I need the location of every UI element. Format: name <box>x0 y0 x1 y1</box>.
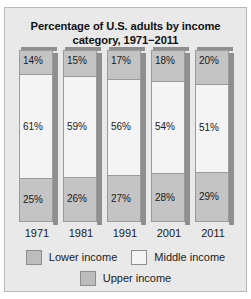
x-axis-tick-label: 1971 <box>17 226 57 240</box>
x-axis-tick-label: 1981 <box>61 226 101 240</box>
legend-row-secondary: Upper income <box>5 271 246 286</box>
legend-item: Lower income <box>26 250 117 265</box>
bar-segment-upper-income: 18% <box>152 51 184 82</box>
chart-title-line-2: category, 1971−2011 <box>5 33 246 47</box>
bar-segment-value-label: 51% <box>199 122 219 133</box>
bar-segment-value-label: 56% <box>111 121 131 132</box>
bar-3d-side-face <box>185 53 190 225</box>
stacked-bar: 18%54%28% <box>151 50 185 222</box>
bar-segment-value-label: 29% <box>199 191 219 202</box>
x-axis-tick-label: 2011 <box>193 226 233 240</box>
bar-segment-lower-income: 29% <box>196 172 228 221</box>
chart-legend: Lower incomeMiddle income Upper income <box>5 250 246 292</box>
bar-segment-value-label: 59% <box>67 121 87 132</box>
bar-segment-middle-income: 56% <box>108 80 140 175</box>
stacked-bar-plot-area: 14%61%25%15%59%26%17%56%27%18%54%28%20%5… <box>5 50 246 222</box>
bar-segment-value-label: 27% <box>111 193 131 204</box>
stacked-bar: 20%51%29% <box>195 50 229 222</box>
stacked-bar: 14%61%25% <box>19 50 53 222</box>
x-axis-tick-label: 1991 <box>105 226 145 240</box>
legend-color-swatch <box>80 271 96 286</box>
chart-title-line-1: Percentage of U.S. adults by income <box>5 19 246 33</box>
chart-title: Percentage of U.S. adults by income cate… <box>5 19 246 47</box>
bar-3d-side-face <box>141 53 146 225</box>
bar-segment-lower-income: 28% <box>152 173 184 221</box>
legend-item-label: Upper income <box>103 272 171 285</box>
bar-segment-middle-income: 59% <box>64 77 96 177</box>
legend-item: Middle income <box>131 250 225 265</box>
legend-item-label: Middle income <box>154 251 225 264</box>
bar-segment-value-label: 17% <box>111 55 131 66</box>
legend-color-swatch <box>26 250 42 265</box>
legend-row-primary: Lower incomeMiddle income <box>5 250 246 265</box>
bar-segment-middle-income: 61% <box>20 75 52 179</box>
bar-segment-value-label: 54% <box>155 121 175 132</box>
bar-segment-value-label: 20% <box>199 55 219 66</box>
bar-segment-lower-income: 26% <box>64 177 96 221</box>
bar-segment-value-label: 18% <box>155 55 175 66</box>
bar-segment-lower-income: 25% <box>20 178 52 221</box>
chart-panel: Percentage of U.S. adults by income cate… <box>4 7 247 292</box>
x-axis-year-labels: 19711981199120012011 <box>5 226 246 242</box>
bar-segment-lower-income: 27% <box>108 175 140 221</box>
bar-3d-side-face <box>97 53 102 225</box>
bar-3d-side-face <box>53 53 58 225</box>
bar-segment-upper-income: 15% <box>64 51 96 77</box>
bar-segment-value-label: 14% <box>23 55 43 66</box>
stacked-bar: 15%59%26% <box>63 50 97 222</box>
legend-color-swatch <box>131 250 147 265</box>
bar-segment-value-label: 61% <box>23 121 43 132</box>
bar-segment-value-label: 28% <box>155 192 175 203</box>
bar-segment-value-label: 15% <box>67 55 87 66</box>
bar-segment-upper-income: 17% <box>108 51 140 80</box>
bar-segment-upper-income: 20% <box>196 51 228 85</box>
bar-segment-middle-income: 54% <box>152 82 184 174</box>
legend-item: Upper income <box>80 271 171 286</box>
bar-3d-side-face <box>229 53 234 225</box>
legend-item-label: Lower income <box>49 251 117 264</box>
bar-segment-value-label: 25% <box>23 194 43 205</box>
stacked-bar: 17%56%27% <box>107 50 141 222</box>
bar-segment-upper-income: 14% <box>20 51 52 75</box>
bar-segment-middle-income: 51% <box>196 85 228 172</box>
x-axis-tick-label: 2001 <box>149 226 189 240</box>
bar-segment-value-label: 26% <box>67 193 87 204</box>
